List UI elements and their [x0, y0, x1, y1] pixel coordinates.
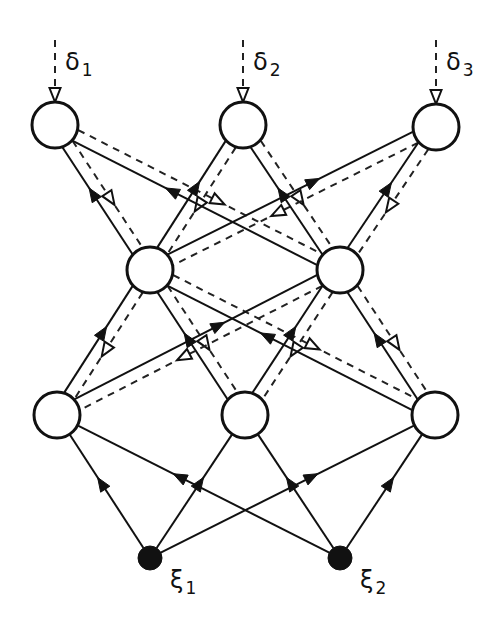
- forward-edge-line: [251, 147, 322, 254]
- open-arrowhead-icon: [177, 349, 192, 360]
- input-subscript: 2: [375, 578, 386, 598]
- input-label-1: ξ1: [170, 566, 196, 598]
- filled-arrowhead-icon: [305, 178, 320, 189]
- filled-arrowhead-icon: [184, 333, 196, 348]
- forward-edge-m1-t3: [168, 132, 413, 254]
- open-arrowhead-icon: [387, 335, 399, 350]
- forward-edge-xi2-b3: [347, 434, 423, 548]
- backward-edge-m2-b2: [263, 293, 333, 400]
- filled-arrowhead-icon: [187, 182, 199, 197]
- error-symbol: δ: [446, 48, 461, 76]
- forward-edge-line: [157, 434, 233, 548]
- filled-arrowhead-icon: [379, 183, 391, 198]
- open-arrowhead-icon: [50, 88, 61, 102]
- forward-edge-m1-t1: [63, 148, 133, 255]
- backward-edge-t1-m1: [73, 141, 143, 248]
- hidden1-node-2: [222, 392, 268, 438]
- backward-edge-m1-b2: [168, 286, 238, 393]
- filled-arrowhead-icon: [210, 322, 225, 333]
- forward-edges: [63, 132, 423, 553]
- forward-edge-line: [258, 434, 334, 548]
- filled-arrowhead-icon: [260, 333, 275, 344]
- error-label-3: δ3: [446, 48, 474, 80]
- filled-arrowhead-icon: [381, 477, 393, 492]
- forward-edge-line: [70, 434, 144, 548]
- error-symbol: δ: [65, 48, 80, 76]
- backward-edge-m2-b3: [358, 286, 428, 393]
- error-inputs: [50, 40, 442, 104]
- forward-edge-m2-t1: [73, 141, 317, 265]
- error-input-2: [238, 40, 249, 102]
- input-symbol: ξ: [170, 566, 183, 594]
- forward-edge-b2-m1: [158, 293, 228, 400]
- error-subscript: 3: [463, 60, 474, 80]
- forward-edge-m2-t2: [251, 147, 322, 254]
- open-arrowhead-icon: [431, 90, 442, 104]
- filled-arrowhead-icon: [98, 477, 110, 492]
- forward-edge-xi1-b2: [157, 434, 233, 548]
- error-input-3: [431, 40, 442, 104]
- backward-edge-t1-m2: [78, 130, 322, 254]
- open-arrowhead-icon: [271, 205, 286, 216]
- filled-arrowhead-icon: [165, 188, 180, 199]
- forward-edge-xi2-b2: [258, 434, 334, 548]
- open-arrowhead-icon: [238, 88, 249, 102]
- backward-edge-m2-b1: [80, 286, 322, 410]
- backward-edge-t2-m2: [261, 141, 332, 248]
- error-subscript: 2: [270, 60, 281, 80]
- input-subscript: 1: [185, 578, 196, 598]
- forward-edge-line: [73, 141, 317, 265]
- filled-arrowhead-icon: [173, 474, 188, 485]
- input-node-2: [328, 546, 352, 570]
- output-node-2: [220, 102, 266, 148]
- forward-edge-line: [64, 286, 132, 392]
- hidden1-node-1: [34, 392, 80, 438]
- open-arrowhead-icon: [102, 342, 114, 357]
- input-node-1: [138, 546, 162, 570]
- filled-arrowhead-icon: [303, 474, 318, 485]
- open-arrowhead-icon: [386, 198, 398, 213]
- filled-arrowhead-icon: [284, 326, 296, 341]
- error-label-1: δ1: [65, 48, 93, 80]
- filled-arrowhead-icon: [94, 327, 106, 342]
- forward-edge-line: [158, 293, 228, 400]
- forward-edge-line: [63, 148, 133, 255]
- error-label-2: δ2: [253, 48, 281, 80]
- network-diagram: δ1δ2δ3ξ1ξ2: [0, 0, 496, 633]
- filled-arrowhead-icon: [278, 188, 290, 203]
- hidden1-node-3: [412, 392, 458, 438]
- hidden2-node-1: [127, 247, 173, 293]
- forward-edge-line: [168, 132, 413, 254]
- forward-edge-b1-m2: [75, 275, 317, 399]
- forward-edge-line: [347, 434, 423, 548]
- filled-arrowhead-icon: [89, 188, 101, 203]
- output-node-1: [32, 102, 78, 148]
- backward-edge-t3-m2: [358, 149, 428, 254]
- backward-edge-line: [80, 286, 322, 410]
- filled-arrowhead-icon: [374, 333, 386, 348]
- open-arrowhead-icon: [210, 193, 225, 204]
- error-input-1: [50, 40, 61, 102]
- backward-edge-line: [78, 130, 322, 254]
- open-arrowhead-icon: [305, 338, 320, 349]
- error-symbol: δ: [253, 48, 268, 76]
- filled-arrowhead-icon: [286, 477, 298, 492]
- forward-edge-b1-m1: [64, 286, 132, 392]
- output-node-3: [413, 104, 459, 150]
- forward-edge-b3-m1: [168, 286, 412, 410]
- forward-edge-line: [75, 275, 317, 399]
- forward-edge-xi1-b1: [70, 434, 144, 548]
- hidden2-node-2: [317, 247, 363, 293]
- input-label-2: ξ2: [360, 566, 386, 598]
- open-arrowhead-icon: [102, 190, 114, 205]
- forward-edge-line: [168, 286, 412, 410]
- input-symbol: ξ: [360, 566, 373, 594]
- error-subscript: 1: [82, 60, 93, 80]
